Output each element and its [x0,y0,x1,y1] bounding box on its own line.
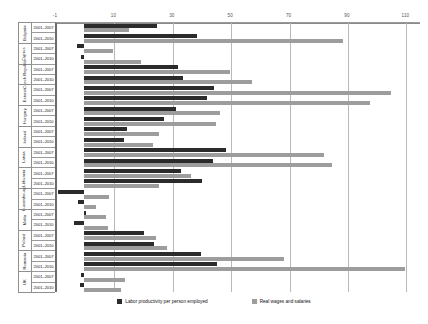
period-label-cell: 2001–2007 [31,250,55,260]
period-label-cell: 2001–2007 [31,105,55,115]
table-row [55,105,420,115]
period-label-cell: 2001–2010 [31,157,55,167]
table-row [55,64,420,74]
legend-label-labor-productivity: Labor productivity per person employed [125,299,207,304]
chart-legend: Labor productivity per person employed R… [0,299,428,304]
bar-labor-productivity [81,55,84,59]
table-row [55,282,420,292]
table-row [55,126,420,136]
country-label-cell: Romania [18,250,31,271]
period-label-cell: 2001–2010 [31,53,55,63]
country-label-cell: Lithuania [18,167,31,188]
period-label-cell: 2001–2007 [31,22,55,32]
legend-label-real-wages: Real wages and salaries [260,299,311,304]
table-row [55,230,420,240]
chart-container: -11030507090110 BulgariaCyprusCzech Repu… [0,0,428,324]
label-column-bottom-border [18,292,55,293]
period-label: 2001–2010 [34,243,54,248]
table-row [55,95,420,105]
country-label-cell: Estonia [18,84,31,105]
period-label-cell: 2001–2007 [31,84,55,94]
period-label: 2001–2010 [34,285,54,290]
period-label: 2001–2007 [34,171,54,176]
period-label: 2001–2007 [34,46,54,51]
period-label: 2001–2010 [34,98,54,103]
period-label: 2001–2007 [34,274,54,279]
period-label: 2001–2007 [34,129,54,134]
bar-labor-productivity [84,211,85,215]
table-row [55,43,420,53]
period-label-cell: 2001–2007 [31,230,55,240]
x-tick-label: 10 [111,13,116,18]
period-label-cell: 2001–2010 [31,261,55,271]
bar-labor-productivity [84,242,154,246]
period-label-cell: 2001–2010 [31,74,55,84]
table-row [55,115,420,125]
period-label-cell: 2001–2010 [31,32,55,42]
period-label: 2001–2010 [34,56,54,61]
bar-real-wages [84,288,121,292]
period-label: 2001–2007 [34,25,54,30]
period-label: 2001–2010 [34,36,54,41]
bar-labor-productivity [81,273,84,277]
bar-labor-productivity [84,96,207,100]
period-label-cell: 2001–2010 [31,199,55,209]
period-label: 2001–2007 [34,191,54,196]
country-label: Romania [23,253,27,270]
table-row [55,271,420,281]
period-label-cell: 2001–2007 [31,64,55,74]
bar-labor-productivity [84,138,123,142]
bar-labor-productivity [77,44,84,48]
period-label: 2001–2007 [34,108,54,113]
table-row [55,53,420,63]
period-label: 2001–2010 [34,264,54,269]
bar-labor-productivity [80,283,84,287]
bar-labor-productivity [84,252,201,256]
period-label-cell: 2001–2007 [31,188,55,198]
country-label-cell: UK [18,271,31,292]
bar-labor-productivity [84,65,177,69]
period-label: 2001–2010 [34,139,54,144]
table-row [55,136,420,146]
legend-swatch-real-wages [252,299,257,304]
country-label: Hungary [23,108,27,124]
bar-labor-productivity [84,24,157,28]
bar-labor-productivity [84,231,144,235]
period-label-cell: 2001–2010 [31,95,55,105]
table-row [55,199,420,209]
period-label: 2001–2007 [34,87,54,92]
bar-labor-productivity [84,179,202,183]
period-label-cell: 2001–2007 [31,167,55,177]
period-label: 2001–2007 [34,150,54,155]
period-label-cell: 2001–2010 [31,178,55,188]
country-label: Lithuania [23,170,27,187]
country-label: Malta [23,215,27,225]
table-row [55,209,420,219]
bar-labor-productivity [84,159,212,163]
bar-labor-productivity [78,200,84,204]
country-label: Cyprus [23,47,27,60]
period-label: 2001–2007 [34,212,54,217]
bar-labor-productivity [84,262,217,266]
legend-item-real-wages: Real wages and salaries [252,299,311,304]
period-label-cell: 2001–2007 [31,147,55,157]
period-label-cell: 2001–2010 [31,219,55,229]
table-row [55,219,420,229]
period-label: 2001–2007 [34,233,54,238]
period-label-cell: 2001–2010 [31,136,55,146]
country-label-cell: Hungary [18,105,31,126]
country-label: Estonia [23,88,27,102]
country-label-cell: Ireland [18,126,31,147]
period-label: 2001–2010 [34,77,54,82]
bar-labor-productivity [84,107,176,111]
bar-labor-productivity [84,76,183,80]
period-label-cell: 2001–2010 [31,282,55,292]
table-row [55,178,420,188]
table-row [55,167,420,177]
country-label-column: BulgariaCyprusCzech RepublicEstoniaHunga… [18,22,31,292]
bar-labor-productivity [74,221,84,225]
country-label: Ireland [23,130,27,143]
period-label-cell: 2001–2007 [31,126,55,136]
x-tick-label: 70 [286,13,291,18]
period-label-cell: 2001–2010 [31,115,55,125]
